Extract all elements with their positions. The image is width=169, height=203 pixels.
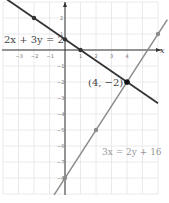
y-axis-arrow-icon	[63, 2, 67, 7]
x-axis-label: x	[160, 46, 165, 55]
y-tick-label: −7	[57, 159, 64, 165]
y-tick-label: 2	[60, 15, 63, 21]
y-tick-label: −5	[57, 127, 64, 133]
equation-label-2: 3x = 2y + 16	[102, 147, 162, 157]
data-point	[124, 79, 129, 84]
y-tick-label: −4	[57, 111, 64, 117]
x-tick-label: −2	[31, 53, 38, 59]
x-tick-label: −3	[16, 53, 23, 59]
x-tick-label: 3	[110, 53, 113, 59]
data-point	[94, 128, 98, 132]
data-point	[63, 176, 67, 180]
y-tick-label: −2	[57, 79, 64, 85]
y-tick-label: −1	[57, 63, 64, 69]
intersection-label: (4, −2)	[88, 77, 123, 88]
x-tick-label: 4	[126, 53, 129, 59]
x-tick-label: 1	[79, 53, 82, 59]
data-point	[32, 16, 36, 20]
y-tick-label: −6	[57, 143, 64, 149]
axes	[2, 2, 162, 195]
equation-line-2	[54, 20, 167, 195]
equation-label-1: 2x + 3y = 2	[4, 34, 64, 45]
y-tick-label: −3	[57, 95, 64, 101]
data-point	[156, 32, 160, 36]
grid-lines	[3, 2, 158, 194]
x-tick-label: −1	[47, 53, 54, 59]
coordinate-plot: −3−2−1123421−1−2−3−4−5−6−7−8 2x + 3y = 2…	[0, 0, 169, 203]
x-tick-label: 2	[95, 53, 98, 59]
data-point	[78, 48, 82, 52]
